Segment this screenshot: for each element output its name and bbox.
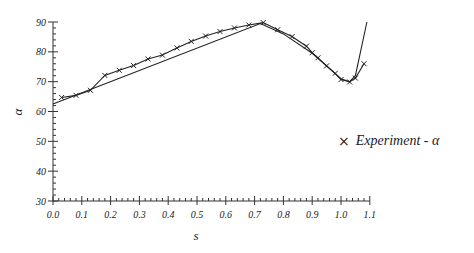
x-tick-label: 1.1 — [364, 209, 377, 220]
x-tick-label: 0.8 — [277, 209, 290, 220]
x-tick-label: 1.0 — [335, 209, 348, 220]
x-tick-label: 0.9 — [306, 209, 319, 220]
x-tick-label: 0.5 — [191, 209, 204, 220]
y-tick-label: 90 — [36, 17, 46, 28]
y-tick-label: 80 — [36, 46, 46, 57]
x-marker-icon: × — [338, 134, 350, 148]
x-marker-icon — [131, 63, 136, 68]
x-tick-label: 0.1 — [76, 209, 89, 220]
y-tick-label: 50 — [36, 136, 46, 147]
x-tick-label: 0.2 — [104, 209, 117, 220]
series-layer — [53, 20, 367, 104]
legend: × Experiment - α — [338, 133, 439, 149]
x-marker-icon — [203, 34, 208, 39]
experiment-line — [62, 23, 364, 98]
legend-label: Experiment - α — [356, 133, 440, 149]
y-tick-label: 40 — [36, 166, 46, 177]
y-tick-label: 30 — [35, 196, 46, 207]
x-marker-icon — [362, 61, 367, 66]
x-marker-icon — [174, 45, 179, 50]
x-marker-icon — [189, 39, 194, 44]
chart-canvas: 304050607080900.00.10.20.30.40.50.60.70.… — [0, 0, 474, 253]
y-axis-title: α — [10, 107, 25, 115]
x-tick-label: 0.3 — [133, 209, 146, 220]
x-tick-label: 0.6 — [220, 209, 233, 220]
x-marker-icon — [102, 73, 107, 78]
x-axis-title: s — [193, 228, 198, 243]
x-tick-label: 0.4 — [162, 209, 175, 220]
y-tick-label: 70 — [36, 76, 46, 87]
axes: 304050607080900.00.10.20.30.40.50.60.70.… — [35, 17, 376, 221]
x-tick-label: 0.0 — [47, 209, 60, 220]
x-tick-label: 0.7 — [248, 209, 262, 220]
y-tick-label: 60 — [36, 106, 46, 117]
